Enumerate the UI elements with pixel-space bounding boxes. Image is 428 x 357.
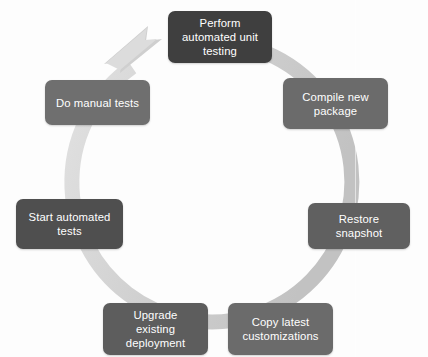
step-label-compile: Compile new package <box>289 90 382 118</box>
step-node-upgrade[interactable]: Upgrade existing deployment <box>103 303 208 355</box>
step-node-start[interactable]: Start automated tests <box>16 199 123 249</box>
step-node-restore[interactable]: Restore snapshot <box>308 203 410 249</box>
cycle-diagram: Perform automated unit testing Compile n… <box>0 0 428 357</box>
step-node-perform[interactable]: Perform automated unit testing <box>168 11 272 63</box>
step-label-upgrade: Upgrade existing deployment <box>109 308 202 350</box>
step-label-perform: Perform automated unit testing <box>174 16 266 58</box>
step-label-do-manual-tests: Do manual tests <box>51 96 144 110</box>
step-label-restore: Restore snapshot <box>314 212 404 240</box>
step-label-start: Start automated tests <box>22 210 117 238</box>
step-node-compile[interactable]: Compile new package <box>283 78 388 129</box>
step-node-copy[interactable]: Copy latest customizations <box>228 303 333 355</box>
step-label-copy: Copy latest customizations <box>234 315 327 343</box>
step-node-do-manual-tests[interactable]: Do manual tests <box>45 80 150 125</box>
